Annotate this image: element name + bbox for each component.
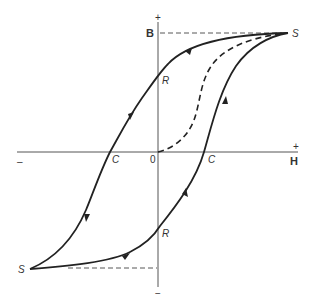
initial-magnetization-curve [158,34,280,152]
horizontal-minus-label: – [17,156,23,167]
horizontal-plus-label: + [293,141,299,152]
saturation-top-label: S [292,28,299,39]
origin-label: 0 [150,154,156,165]
h-axis-label: H [290,155,298,167]
b-axis-label: B [146,27,154,39]
saturation-bottom-label: S [18,264,25,275]
coercivity-right-label: C [208,154,216,165]
remanence-bottom-label: R [162,228,169,239]
vertical-plus-label: + [155,12,161,23]
hysteresis-diagram: + − + – B H 0 S S R R C C [0,0,312,300]
arrow-icon [84,214,90,222]
arrow-icon [222,96,228,104]
remanence-top-label: R [162,75,169,86]
vertical-minus-label: − [155,288,161,299]
coercivity-left-label: C [112,154,120,165]
